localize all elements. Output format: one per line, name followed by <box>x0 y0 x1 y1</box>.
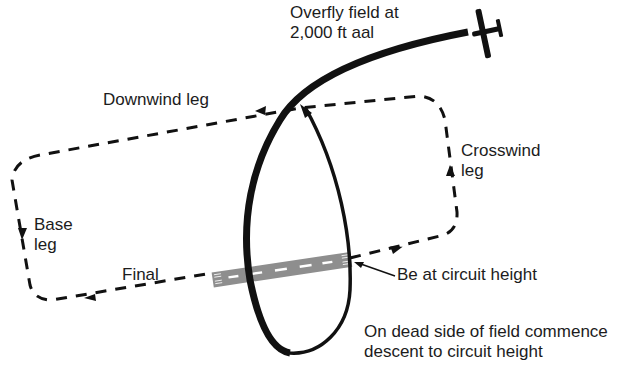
label-circuit-height: Be at circuit height <box>397 265 537 285</box>
label-overfly: Overfly field at 2,000 ft aal <box>290 3 399 43</box>
label-base-line1: Base <box>34 215 73 235</box>
circuit-diagram: Overfly field at 2,000 ft aal Downwind l… <box>0 0 644 380</box>
label-dead-side: On dead side of field commence descent t… <box>364 322 608 362</box>
arrow-base-icon <box>18 228 27 240</box>
arrow-downwind-icon <box>255 106 266 115</box>
circuit-height-leader <box>358 263 395 276</box>
arrow-crosswind-icon <box>446 165 455 176</box>
overhead-join-track <box>247 32 468 353</box>
label-dead-side-line2: descent to circuit height <box>364 342 608 362</box>
label-base: Base leg <box>34 215 73 255</box>
label-crosswind-line1: Crosswind <box>461 141 540 161</box>
label-overfly-line1: Overfly field at <box>290 3 399 23</box>
label-dead-side-line1: On dead side of field commence <box>364 322 608 342</box>
label-crosswind: Crosswind leg <box>461 141 540 181</box>
label-overfly-line2: 2,000 ft aal <box>290 23 399 43</box>
label-final: Final <box>122 265 159 285</box>
label-crosswind-line2: leg <box>461 161 540 181</box>
runway <box>212 252 353 288</box>
aircraft-icon <box>467 5 507 60</box>
leader-arrowhead-icon <box>354 262 364 268</box>
label-base-line2: leg <box>34 235 73 255</box>
label-downwind: Downwind leg <box>103 90 209 110</box>
